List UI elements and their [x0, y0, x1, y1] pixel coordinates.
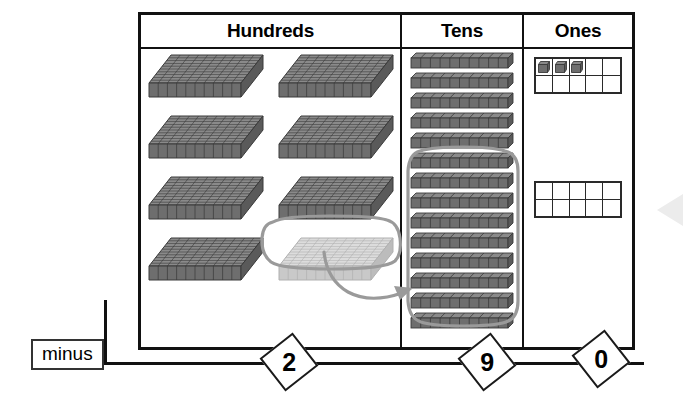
tens-rod-selected[interactable]: [410, 272, 514, 289]
ten-frame-cell[interactable]: [570, 59, 587, 76]
ten-frame-cell[interactable]: [586, 183, 603, 200]
place-value-column-ones: Ones: [522, 15, 632, 347]
column-body-ones: [524, 49, 632, 347]
ten-frame-cell[interactable]: [586, 76, 603, 93]
place-value-column-hundreds: Hundreds: [141, 15, 400, 347]
ten-frame-cell[interactable]: [553, 200, 570, 217]
tens-rod[interactable]: [410, 112, 514, 129]
hundreds-flat[interactable]: [277, 114, 395, 161]
hundreds-block-grid: [147, 53, 395, 285]
ones-unit-cube[interactable]: [537, 60, 550, 73]
ten-frame-cell[interactable]: [586, 59, 603, 76]
ten-frame-cell[interactable]: [603, 200, 620, 217]
tens-rod-selected[interactable]: [410, 212, 514, 229]
ten-frame-cell[interactable]: [553, 76, 570, 93]
column-header-ones: Ones: [524, 15, 632, 49]
operation-line-riser: [104, 300, 107, 364]
place-value-chart: Hundreds Tens Ones: [138, 12, 635, 350]
ten-frame-top[interactable]: [534, 57, 622, 94]
ten-frame-cell[interactable]: [570, 76, 587, 93]
ten-frame-cell[interactable]: [603, 76, 620, 93]
tens-rod-stack: [410, 52, 514, 332]
ten-frame-cell[interactable]: [570, 183, 587, 200]
column-header-tens: Tens: [402, 15, 522, 49]
column-header-tens-label: Tens: [441, 20, 483, 42]
hundreds-flat[interactable]: [277, 53, 395, 100]
column-body-tens: [402, 49, 522, 347]
tens-rod-selected[interactable]: [410, 232, 514, 249]
tens-rod-selected[interactable]: [410, 192, 514, 209]
hundreds-flat[interactable]: [147, 114, 265, 161]
hundreds-flat[interactable]: [147, 236, 265, 283]
place-value-column-tens: Tens: [400, 15, 522, 347]
ten-frame-cell[interactable]: [553, 59, 570, 76]
operation-line: [104, 362, 644, 365]
digit-tile-ones-value: 0: [594, 347, 608, 372]
ten-frame-cell[interactable]: [603, 59, 620, 76]
operation-label: minus: [42, 343, 93, 364]
ones-unit-cube[interactable]: [571, 60, 584, 73]
ten-frame-cell[interactable]: [570, 200, 587, 217]
digit-tile-tens-value: 9: [480, 350, 494, 375]
ten-frame-cell[interactable]: [553, 183, 570, 200]
ones-unit-cube[interactable]: [554, 60, 567, 73]
ten-frame-cell[interactable]: [536, 76, 553, 93]
hundreds-flat[interactable]: [147, 175, 265, 222]
tens-rod-selected[interactable]: [410, 152, 514, 169]
ten-frame-cell[interactable]: [603, 183, 620, 200]
operation-label-box: minus: [31, 339, 104, 370]
tens-rod-selected[interactable]: [410, 292, 514, 309]
tens-rod[interactable]: [410, 72, 514, 89]
ten-frame-bottom[interactable]: [534, 181, 622, 218]
column-body-hundreds: [141, 49, 400, 347]
tens-rod[interactable]: [410, 52, 514, 69]
digit-tile-hundreds-value: 2: [282, 350, 296, 375]
tens-rod-selected[interactable]: [410, 172, 514, 189]
tens-rod[interactable]: [410, 132, 514, 149]
ten-frame-cell[interactable]: [536, 183, 553, 200]
column-header-hundreds: Hundreds: [141, 15, 400, 49]
hundreds-flat-selected[interactable]: [277, 236, 395, 283]
tens-rod-selected[interactable]: [410, 312, 514, 329]
tens-rod-selected[interactable]: [410, 252, 514, 269]
column-header-hundreds-label: Hundreds: [227, 20, 314, 42]
ten-frame-cell[interactable]: [536, 59, 553, 76]
tens-rod[interactable]: [410, 92, 514, 109]
hundreds-flat[interactable]: [147, 53, 265, 100]
ten-frame-cell[interactable]: [536, 200, 553, 217]
column-header-ones-label: Ones: [555, 20, 602, 42]
ten-frame-cell[interactable]: [586, 200, 603, 217]
hundreds-flat[interactable]: [277, 175, 395, 222]
previous-step-arrow[interactable]: [655, 188, 685, 232]
